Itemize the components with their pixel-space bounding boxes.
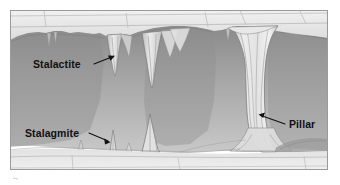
stalagmite-label-text: Stalagmite — [25, 127, 79, 139]
cave-detail-speck — [148, 104, 150, 106]
cave-diagram-figure: Stalactite Stalagmite Pillar — [0, 0, 340, 185]
cave-recess-right — [268, 32, 328, 150]
cave-scene — [10, 10, 328, 170]
stalactite-label-text: Stalactite — [33, 58, 81, 70]
cave-cross-section-illustration: Stalactite Stalagmite Pillar — [0, 0, 340, 185]
pillar-label-text: Pillar — [289, 118, 315, 130]
